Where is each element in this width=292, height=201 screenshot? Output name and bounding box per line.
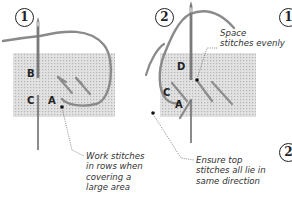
panel-1-point-a: A [48, 96, 56, 106]
step-number-1: 1 [15, 8, 34, 27]
edge-step-number-2: 2 [279, 143, 292, 162]
panel-2-needle-icon [190, 1, 193, 143]
edge-step-number-1: 1 [279, 8, 292, 27]
panel-2-leader-bottom [151, 111, 194, 160]
panel-1-annotation: Work stitches in rows when covering a la… [86, 151, 145, 193]
panel-2-point-d: D [177, 62, 185, 72]
panel-2-point-a: A [175, 100, 183, 110]
step-number-2: 2 [155, 8, 174, 27]
panel-1-point-b: B [27, 69, 35, 79]
panel-2-annotation-bottom: Ensure top stitches all lie in same dire… [196, 155, 266, 186]
panel-2-annotation-top: Space stitches evenly [220, 28, 285, 49]
panel-1-point-c: C [27, 96, 34, 106]
panel-2-point-c: C [163, 88, 170, 98]
